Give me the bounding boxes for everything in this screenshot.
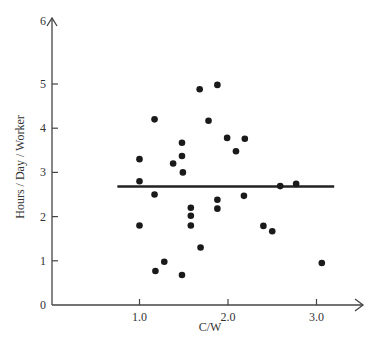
data-point — [188, 212, 195, 219]
data-point — [151, 116, 158, 123]
data-point — [197, 244, 204, 251]
data-point — [319, 260, 326, 267]
data-point — [179, 272, 186, 279]
x-axis-title: C/W — [199, 320, 222, 334]
data-point — [136, 222, 143, 229]
data-point — [188, 222, 195, 229]
data-point — [269, 228, 276, 235]
data-point — [179, 139, 186, 146]
data-point — [214, 82, 221, 89]
data-point — [151, 191, 158, 198]
x-ticks: 1.02.03.0 — [132, 299, 324, 324]
data-point — [179, 153, 186, 160]
data-point — [260, 223, 267, 230]
data-point — [196, 86, 203, 93]
data-point — [188, 204, 195, 211]
data-point — [233, 148, 240, 155]
y-ticks: 0123456 — [40, 14, 58, 312]
scatter-chart: 0123456 1.02.03.0 C/W Hours / Day / Work… — [0, 0, 381, 349]
data-point — [277, 183, 284, 190]
x-tick-label: 3.0 — [309, 310, 324, 324]
data-points — [136, 82, 325, 279]
y-axis-title: Hours / Day / Worker — [13, 115, 27, 218]
y-tick-label: 1 — [40, 254, 46, 268]
data-point — [242, 136, 249, 143]
data-point — [214, 197, 221, 204]
data-point — [136, 156, 143, 163]
data-point — [136, 178, 143, 185]
data-point — [180, 169, 187, 176]
data-point — [170, 160, 177, 167]
data-point — [152, 268, 159, 275]
y-tick-label: 0 — [40, 298, 46, 312]
data-point — [205, 117, 212, 124]
data-point — [293, 181, 300, 188]
x-tick-label: 1.0 — [132, 310, 147, 324]
y-tick-label: 3 — [40, 165, 46, 179]
y-tick-label: 5 — [40, 77, 46, 91]
data-point — [161, 258, 168, 265]
y-tick-label: 2 — [40, 210, 46, 224]
y-tick-label: 6 — [40, 14, 46, 28]
data-point — [214, 205, 221, 212]
x-tick-label: 2.0 — [221, 310, 236, 324]
y-tick-label: 4 — [40, 121, 46, 135]
axes — [47, 18, 363, 311]
data-point — [224, 135, 231, 142]
data-point — [241, 193, 248, 200]
